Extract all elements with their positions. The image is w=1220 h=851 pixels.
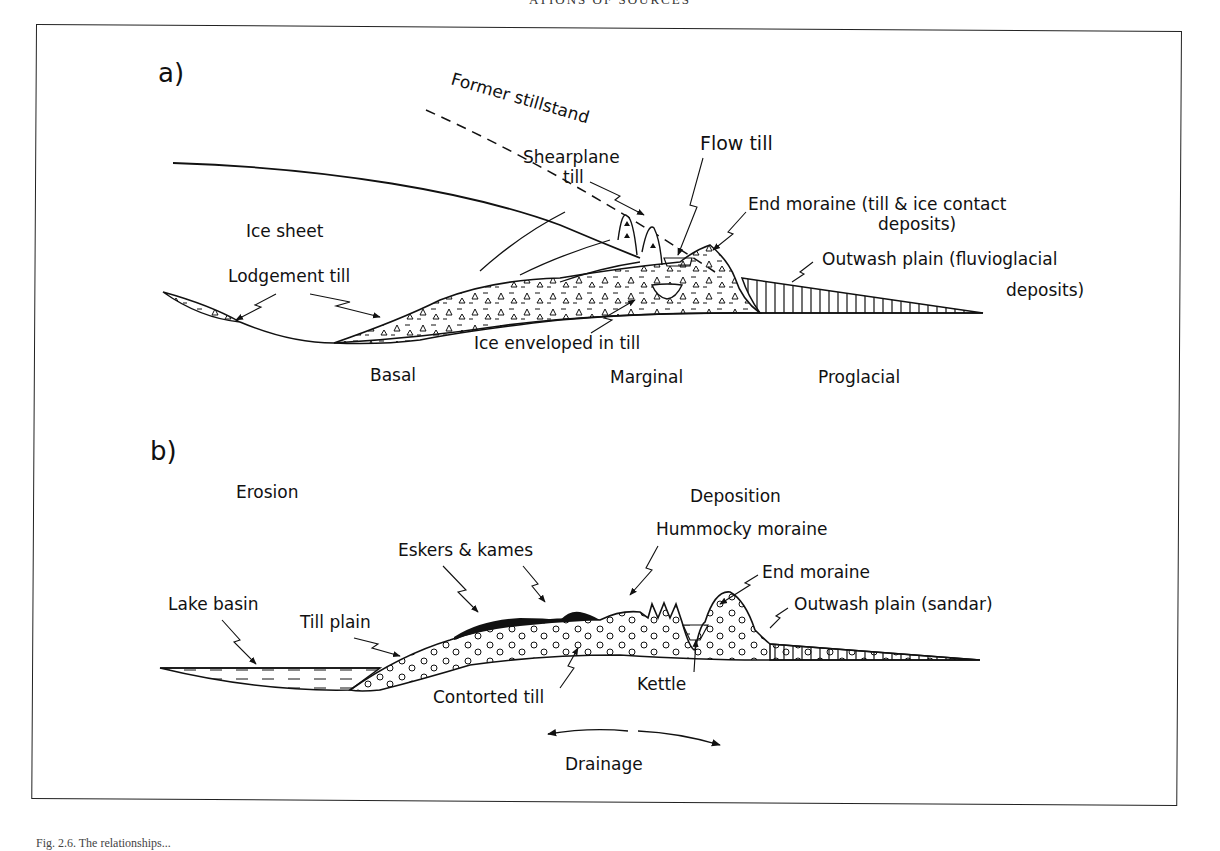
end-moraine-label: End moraine (till & ice contact	[748, 194, 1007, 214]
contorted-till-label: Contorted till	[433, 687, 544, 707]
svg-text:deposits): deposits)	[1006, 280, 1084, 300]
zone-marginal: Marginal	[610, 367, 683, 387]
eskers-kames-label: Eskers & kames	[398, 540, 533, 560]
outwash-sandar	[770, 644, 980, 660]
ice-enveloped-label: Ice enveloped in till	[474, 333, 640, 353]
till-plain-label: Till plain	[299, 612, 371, 632]
shearplane-till-label: Shearplane	[523, 147, 620, 167]
kettle-label: Kettle	[637, 674, 686, 694]
flow-till-label: Flow till	[700, 132, 773, 154]
former-stillstand-label: Former stillstand	[449, 69, 592, 128]
outwash-plain-label: Outwash plain (fluvioglacial	[822, 249, 1057, 269]
former-stillstand-line	[426, 110, 715, 272]
end-moraine-b-label: End moraine	[762, 562, 870, 582]
lodgement-till-label: Lodgement till	[228, 266, 350, 286]
outwash-wedge-a	[742, 278, 983, 313]
svg-text:till: till	[563, 167, 584, 187]
panel-b: b) Erosion Deposition Eskers & kames Hum…	[150, 436, 993, 774]
panel-b-label: b)	[150, 436, 177, 466]
panel-a-label: a)	[158, 58, 184, 88]
svg-text:deposits): deposits)	[878, 214, 956, 234]
hummocky-moraine-label: Hummocky moraine	[656, 519, 827, 539]
lake-basin-label: Lake basin	[168, 594, 259, 614]
zone-proglacial: Proglacial	[818, 367, 900, 387]
drainage-label: Drainage	[565, 754, 643, 774]
deposition-label: Deposition	[690, 486, 781, 506]
panel-a: a) Former stillstand Shearplane till Flo…	[158, 58, 1084, 387]
erosion-label: Erosion	[236, 482, 299, 502]
outwash-sandar-label: Outwash plain (sandar)	[794, 594, 993, 614]
lake-basin	[160, 668, 380, 690]
lodgement-till-body	[334, 245, 760, 344]
figure-caption: Fig. 2.6. The relationships...	[36, 836, 171, 851]
ice-sheet-label: Ice sheet	[246, 221, 324, 241]
zone-basal: Basal	[370, 365, 416, 385]
